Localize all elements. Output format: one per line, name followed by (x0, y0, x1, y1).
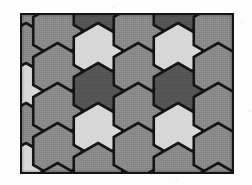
hexagon-layer (22, 15, 232, 172)
figure-canvas (0, 0, 252, 185)
hexagon-tiling-svg (22, 15, 232, 172)
hexagon-tiling-frame (20, 13, 234, 174)
